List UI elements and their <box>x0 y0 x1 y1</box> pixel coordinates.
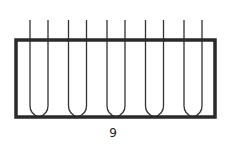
test-tube <box>107 20 125 117</box>
rack-frame <box>16 40 215 117</box>
test-tube <box>146 20 164 117</box>
figure-caption: 9 <box>0 126 226 140</box>
test-tube <box>184 20 202 117</box>
test-tube <box>69 20 87 117</box>
test-tube <box>30 20 48 117</box>
